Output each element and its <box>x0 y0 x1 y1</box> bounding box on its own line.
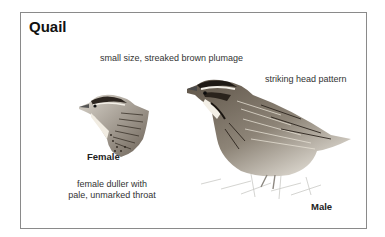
illustration-panel: Quail small size, streaked brown plumage… <box>20 12 367 229</box>
caption-female-line2: pale, unmarked throat <box>57 190 167 201</box>
male-label: Male <box>311 201 332 212</box>
caption-general: small size, streaked brown plumage <box>100 53 243 64</box>
page-title: Quail <box>29 18 67 35</box>
caption-female: female duller with pale, unmarked throat <box>57 179 167 201</box>
caption-female-line1: female duller with <box>57 179 167 190</box>
female-label: Female <box>87 151 120 162</box>
male-quail-illustration <box>181 79 361 209</box>
